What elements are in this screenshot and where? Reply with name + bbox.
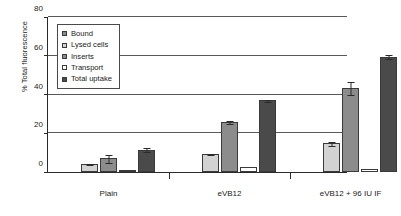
bar[interactable]: [221, 122, 238, 172]
bar[interactable]: [100, 158, 117, 172]
error-bar: [350, 82, 351, 96]
y-axis-title: % Total fluorescence: [20, 0, 29, 117]
chart-legend: BoundLysed cellsInsertsTransportTotal up…: [57, 24, 120, 89]
bar-slot: [259, 17, 276, 172]
error-bar: [331, 142, 332, 147]
legend-label: Bound: [71, 30, 93, 38]
category-separator-tick: [169, 172, 170, 179]
bar-slot: [323, 17, 340, 172]
legend-item[interactable]: Transport: [62, 62, 112, 73]
error-bar: [267, 100, 268, 103]
bar[interactable]: [240, 167, 257, 172]
bar-slot: [240, 17, 257, 172]
legend-item[interactable]: Inserts: [62, 51, 112, 62]
error-bar: [229, 121, 230, 125]
legend-label: Transport: [71, 64, 103, 72]
legend-item[interactable]: Bound: [62, 28, 112, 39]
legend-swatch-icon: [62, 43, 67, 48]
legend-item[interactable]: Lysed cells: [62, 39, 112, 50]
legend-swatch-icon: [62, 65, 67, 70]
bar-slot: [342, 17, 359, 172]
error-bar: [89, 164, 90, 166]
bar-slot: [202, 17, 219, 172]
error-bar: [108, 155, 109, 164]
bar-slot: [138, 17, 155, 172]
bar[interactable]: [259, 100, 276, 172]
bar[interactable]: [380, 57, 397, 172]
bar-group: eVB12 + 96 IU IF: [290, 17, 401, 172]
legend-label: Inserts: [71, 53, 94, 61]
error-bar: [210, 154, 211, 156]
bar-slot: [221, 17, 238, 172]
bar-slot: [361, 17, 378, 172]
category-separator-tick: [290, 172, 291, 179]
bar[interactable]: [342, 88, 359, 172]
bar[interactable]: [202, 154, 219, 172]
bar-slot: [183, 17, 200, 172]
y-tick-label: 0: [39, 159, 48, 168]
bar[interactable]: [323, 143, 340, 172]
bar-group: eVB12: [169, 17, 290, 172]
y-tick-label: 40: [34, 81, 48, 90]
error-bar: [146, 148, 147, 153]
legend-swatch-icon: [62, 31, 67, 36]
legend-label: Total uptake: [71, 75, 112, 83]
bar-slot: [380, 17, 397, 172]
legend-item[interactable]: Total uptake: [62, 74, 112, 85]
x-axis-label: eVB12 + 96 IU IF: [290, 189, 401, 198]
bar-slot: [304, 17, 321, 172]
bar[interactable]: [81, 164, 98, 172]
x-axis-label: eVB12: [169, 189, 290, 198]
legend-swatch-icon: [62, 77, 67, 82]
legend-swatch-icon: [62, 54, 67, 59]
bar[interactable]: [119, 170, 136, 172]
y-tick-label: 80: [34, 4, 48, 13]
bar[interactable]: [361, 169, 378, 172]
y-tick-label: 60: [34, 42, 48, 51]
legend-label: Lysed cells: [71, 41, 108, 49]
error-bar: [388, 55, 389, 60]
bar[interactable]: [138, 150, 155, 172]
y-tick-label: 20: [34, 120, 48, 129]
x-axis-label: Plain: [48, 189, 169, 198]
bar-slot: [119, 17, 136, 172]
